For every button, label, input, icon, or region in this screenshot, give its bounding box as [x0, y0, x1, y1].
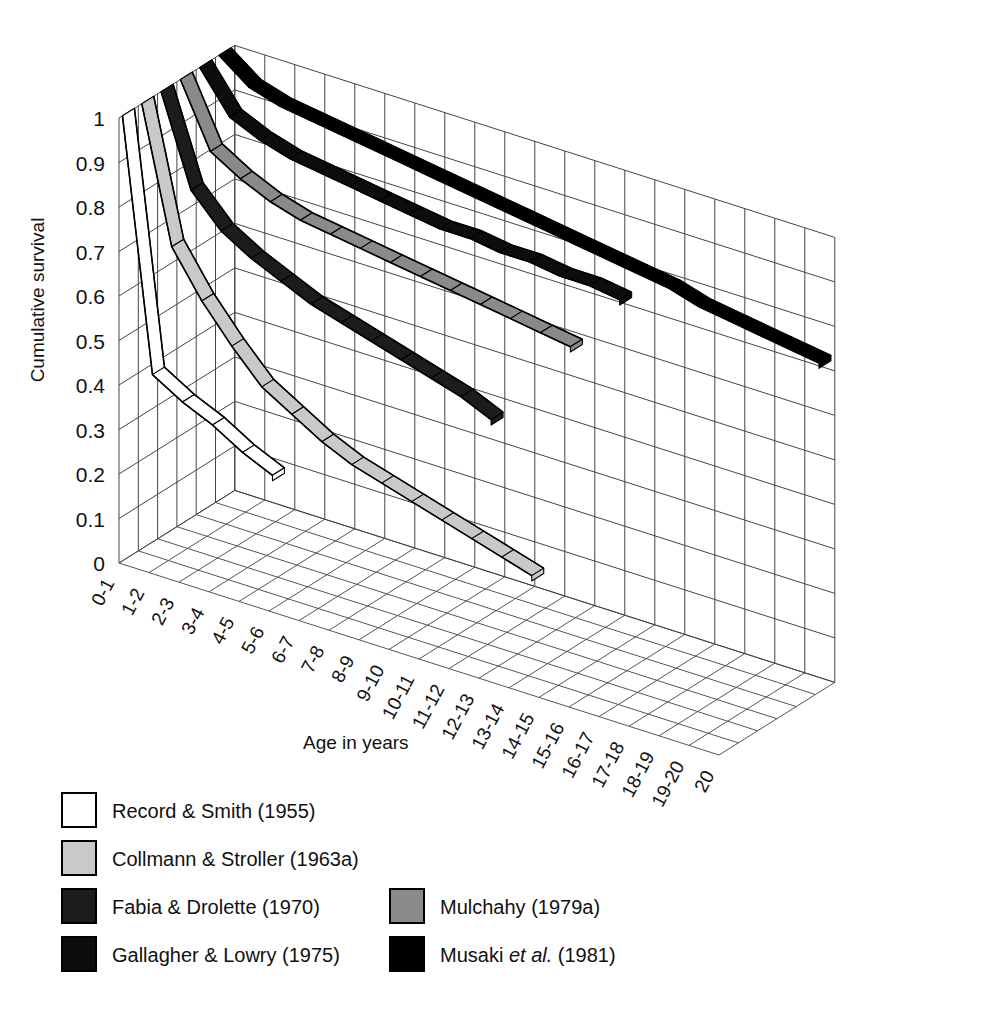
x-axis-tick-label: 8-9: [327, 652, 358, 686]
ribbon-segment: [230, 110, 272, 140]
y-axis-tick-labels: 00.10.20.30.40.50.60.70.80.91: [76, 107, 106, 575]
x-axis-tick-label: 1-2: [117, 585, 148, 619]
legend-item[interactable]: Record & Smith (1955): [62, 793, 315, 827]
legend-swatch: [62, 889, 96, 923]
legend-item[interactable]: Musaki et al. (1981): [390, 937, 616, 971]
ribbon-segment: [182, 395, 224, 425]
legend-item-label: Fabia & Drolette (1970): [112, 896, 320, 918]
legend-item-label: Musaki et al. (1981): [440, 944, 616, 966]
y-axis-tick-label: 0.1: [76, 508, 105, 531]
legend-swatch: [390, 889, 424, 923]
legend-item[interactable]: Fabia & Drolette (1970): [62, 889, 320, 923]
ribbon-segment: [221, 223, 263, 258]
x-axis-tick-label: 2-3: [147, 594, 178, 628]
x-axis-tick-label: 5-6: [237, 623, 268, 657]
ribbon-segment: [251, 251, 293, 281]
x-axis-tick-label: 20: [690, 767, 718, 796]
x-axis-tick-label: 3-4: [177, 603, 209, 637]
y-axis-tick-label: 0.5: [76, 330, 105, 353]
y-axis-tick-label: 0.3: [76, 419, 105, 442]
x-axis-tick-label: 7-8: [297, 642, 328, 676]
legend-item-label: Collmann & Stroller (1963a): [112, 848, 359, 870]
y-axis-tick-label: 0.7: [76, 241, 105, 264]
x-axis-tick-label: 4-5: [207, 613, 238, 647]
legend-swatch: [62, 793, 96, 827]
legend-swatch: [390, 937, 424, 971]
ribbon-segment: [172, 239, 214, 301]
y-axis-tick-label: 0.8: [76, 196, 105, 219]
ribbon-edge: [192, 72, 582, 339]
ribbon-segment: [262, 379, 304, 414]
ribbon-segment: [461, 389, 503, 419]
x-axis-tick-label: 0-1: [87, 575, 118, 609]
legend-swatch: [62, 937, 96, 971]
legend: Record & Smith (1955)Collmann & Stroller…: [62, 793, 616, 971]
legend-item-label: Gallagher & Lowry (1975): [112, 944, 340, 966]
y-axis-tick-label: 0.9: [76, 152, 105, 175]
x-axis-tick-labels: 0-11-22-33-44-55-66-77-88-99-1010-1111-1…: [87, 575, 718, 810]
legend-item[interactable]: Mulchahy (1979a): [390, 889, 600, 923]
x-axis-tick-label: 9-10: [352, 661, 388, 704]
legend-item-label: Record & Smith (1955): [112, 800, 315, 822]
legend-item[interactable]: Collmann & Stroller (1963a): [62, 841, 359, 875]
ribbon-layer: [122, 48, 830, 581]
ribbon-segment: [152, 367, 194, 402]
figure-3d-survival-chart: 00.10.20.30.40.50.60.70.80.91 0-11-22-33…: [0, 0, 1006, 1012]
floor-grid-line: [177, 527, 777, 719]
ribbon-segment: [240, 171, 282, 201]
legend-swatch: [62, 841, 96, 875]
ribbon-segment: [210, 144, 252, 179]
y-axis-tick-label: 0.2: [76, 463, 105, 486]
ribbon-segment: [232, 339, 274, 387]
legend-item[interactable]: Gallagher & Lowry (1975): [62, 937, 340, 971]
chart-canvas: 00.10.20.30.40.50.60.70.80.91 0-11-22-33…: [0, 0, 1006, 1012]
x-axis-title: Age in years: [303, 732, 409, 753]
y-axis-title: Cumulative survival: [27, 218, 48, 383]
ribbon-segment: [202, 293, 244, 346]
ribbon-segment: [281, 274, 323, 304]
y-axis-tick-label: 1: [93, 107, 105, 130]
y-axis-tick-label: 0.6: [76, 285, 105, 308]
legend-item-label: Mulchahy (1979a): [440, 896, 600, 918]
ribbon-segment: [292, 407, 334, 442]
floor-grid-line: [138, 551, 738, 743]
ribbon-segment: [322, 434, 364, 464]
y-axis-tick-label: 0: [93, 552, 105, 575]
x-axis-tick-label: 6-7: [267, 633, 298, 667]
ribbon-segment: [191, 183, 233, 231]
ribbon-edge: [154, 96, 544, 568]
y-axis-tick-label: 0.4: [76, 374, 106, 397]
